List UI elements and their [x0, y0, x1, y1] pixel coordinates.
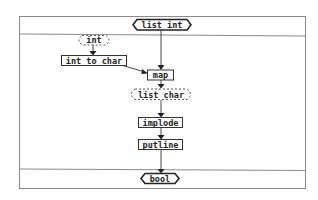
int-type-node[interactable]: int: [79, 35, 109, 45]
map-node[interactable]: map: [148, 70, 174, 80]
input-type-label: list int: [142, 20, 183, 30]
output-type-label: bool: [150, 174, 170, 184]
input-type-node[interactable]: list int: [133, 20, 191, 31]
implode-node[interactable]: implode: [139, 118, 183, 128]
list-char-type-node[interactable]: list char: [132, 89, 191, 100]
int-to-char-node[interactable]: int to char: [62, 56, 127, 66]
output-type-node[interactable]: bool: [141, 174, 179, 184]
int-to-char-label: int to char: [66, 56, 122, 66]
int-type-label: int: [86, 35, 101, 45]
putline-node[interactable]: putline: [139, 140, 183, 150]
diagram-frame: [20, 17, 306, 189]
map-label: map: [153, 70, 168, 80]
dataflow-diagram: list int int int to char map list char i…: [0, 0, 318, 200]
list-char-type-label: list char: [138, 90, 184, 100]
putline-label: putline: [143, 140, 179, 150]
implode-label: implode: [143, 118, 179, 128]
